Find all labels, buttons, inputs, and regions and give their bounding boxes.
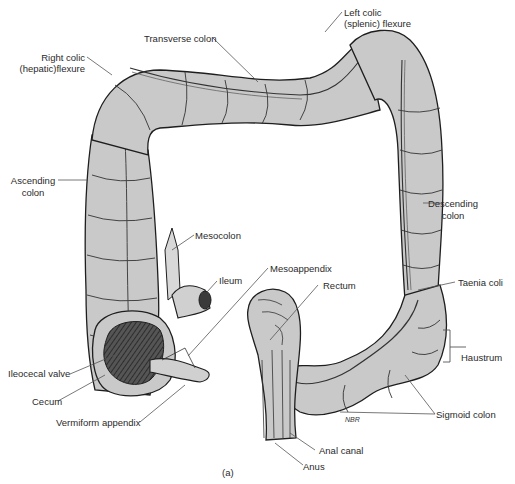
label-left-colic-flexure-2: (splenic) flexure (344, 18, 411, 29)
transverse-colon (92, 38, 380, 155)
label-rectum: Rectum (323, 280, 356, 291)
label-ascending-colon-2: colon (8, 187, 58, 198)
label-sigmoid-colon: Sigmoid colon (436, 409, 496, 420)
label-vermiform-appendix: Vermiform appendix (56, 417, 140, 428)
label-descending-colon-1: Descending (423, 198, 483, 209)
cecum (93, 311, 176, 396)
label-left-colic-flexure-1: Left colic (344, 7, 382, 18)
label-transverse-colon: Transverse colon (144, 33, 217, 44)
descending-colon (350, 30, 443, 300)
ileum (172, 286, 211, 318)
label-right-colic-flexure-1: Right colic (10, 52, 85, 63)
label-taenia-coli: Taenia coli (458, 277, 503, 288)
colon-diagram: NBR Transverse colon Right colic (hepati… (0, 0, 515, 484)
label-anal-canal: Anal canal (319, 445, 363, 456)
label-mesoappendix: Mesoappendix (270, 263, 332, 274)
label-ascending-colon-1: Ascending (8, 175, 58, 186)
rectum (248, 289, 301, 440)
label-anus: Anus (303, 461, 325, 472)
panel-label: (a) (222, 467, 234, 478)
label-descending-colon-2: colon (423, 210, 483, 221)
label-ileocecal-valve: Ileocecal valve (8, 368, 70, 379)
label-haustrum: Haustrum (461, 352, 502, 363)
sigmoid-colon (283, 285, 446, 415)
label-cecum: Cecum (32, 396, 62, 407)
label-mesocolon: Mesocolon (195, 230, 241, 241)
label-ileum: Ileum (219, 275, 242, 286)
artist-signature: NBR (345, 416, 360, 423)
label-right-colic-flexure-2: (hepatic)flexure (10, 63, 85, 74)
